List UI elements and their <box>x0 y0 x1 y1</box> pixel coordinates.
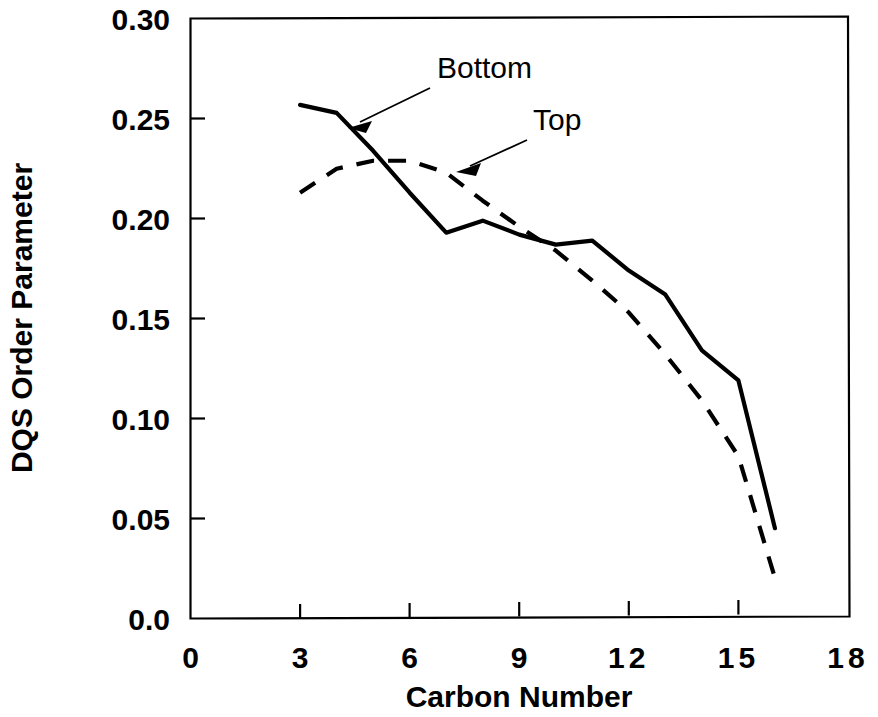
plot-axes <box>191 17 850 619</box>
annotation-arrow-line-top <box>470 140 527 166</box>
y-tick-label-0.0: 0.0 <box>128 603 170 636</box>
series-line-top <box>300 161 775 578</box>
x-tick-label-0: 0 <box>182 641 199 674</box>
y-axis-ticks <box>191 119 206 519</box>
x-tick-label-15: 15 <box>718 641 759 674</box>
chart-canvas: 0.30 0.25 0.20 0.15 0.10 0.05 0.0 0 3 6 … <box>0 0 878 717</box>
x-axis-ticks <box>300 600 738 619</box>
annotation-label-bottom: Bottom <box>437 51 532 84</box>
annotation-top: Top <box>456 103 581 176</box>
y-tick-label-0.05: 0.05 <box>112 503 170 536</box>
series-group <box>300 105 775 578</box>
annotation-label-top: Top <box>533 103 581 136</box>
x-axis-title: Carbon Number <box>406 680 633 713</box>
x-tick-label-9: 9 <box>511 641 528 674</box>
y-tick-label-0.20: 0.20 <box>112 203 170 236</box>
y-tick-label-0.30: 0.30 <box>112 3 170 36</box>
y-tick-label-0.25: 0.25 <box>112 103 170 136</box>
x-tick-label-3: 3 <box>292 641 309 674</box>
annotation-arrow-line-bottom <box>360 88 430 122</box>
chart-figure: 0.30 0.25 0.20 0.15 0.10 0.05 0.0 0 3 6 … <box>0 0 878 717</box>
x-tick-label-6: 6 <box>401 641 418 674</box>
y-tick-label-0.15: 0.15 <box>112 303 170 336</box>
axis-frame <box>191 17 850 619</box>
annotation-arrow-head-top <box>456 163 481 176</box>
y-tick-label-0.10: 0.10 <box>112 403 170 436</box>
x-axis-tick-labels: 0 3 6 9 12 15 18 <box>182 641 869 674</box>
x-tick-label-12: 12 <box>608 641 649 674</box>
series-line-bottom <box>300 105 775 528</box>
x-tick-label-18: 18 <box>827 641 868 674</box>
y-axis-title: DQS Order Parameter <box>5 163 38 473</box>
annotation-bottom: Bottom <box>348 51 532 133</box>
y-axis-tick-labels: 0.30 0.25 0.20 0.15 0.10 0.05 0.0 <box>112 3 170 636</box>
